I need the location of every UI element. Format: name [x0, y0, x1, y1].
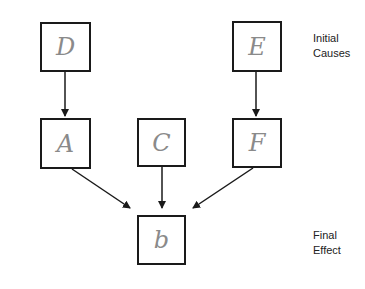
- node-a-label: A: [57, 130, 74, 158]
- node-e-label: E: [248, 33, 266, 61]
- node-f: F: [232, 118, 282, 168]
- node-d: D: [40, 22, 91, 72]
- initial-causes-line1: Initial: [313, 31, 350, 46]
- final-effect-line1: Final: [313, 228, 341, 243]
- causal-diagram: D E A C F b Initial Causes Final Effect: [0, 0, 365, 289]
- node-c: C: [137, 118, 186, 167]
- node-c-label: C: [152, 129, 170, 157]
- initial-causes-label: Initial Causes: [313, 31, 350, 61]
- node-b: b: [137, 215, 186, 265]
- arrow-f-to-b: [193, 168, 253, 208]
- node-e: E: [232, 21, 282, 72]
- final-effect-label: Final Effect: [313, 228, 341, 258]
- node-d-label: D: [56, 33, 75, 61]
- final-effect-line2: Effect: [313, 243, 341, 258]
- node-f-label: F: [249, 129, 266, 157]
- initial-causes-line2: Causes: [313, 46, 350, 61]
- node-b-label: b: [154, 226, 169, 254]
- node-a: A: [40, 118, 91, 169]
- arrow-a-to-b: [72, 169, 130, 208]
